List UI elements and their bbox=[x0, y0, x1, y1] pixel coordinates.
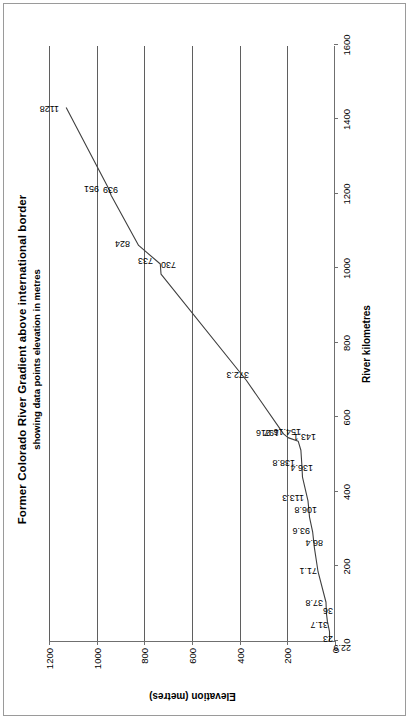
chart-canvas: Former Colorado River Gradient above int… bbox=[3, 3, 406, 716]
figure-frame: Former Colorado River Gradient above int… bbox=[3, 3, 406, 716]
data-point-label: 22.9 bbox=[333, 643, 351, 653]
data-series-line bbox=[49, 45, 335, 641]
data-point-label: 372.3 bbox=[227, 370, 250, 380]
x-tick-label: 200 bbox=[341, 559, 352, 575]
data-point-label: 939 bbox=[103, 186, 118, 196]
plot-area: 020040060080010001200 020040060080010001… bbox=[49, 46, 335, 642]
x-tick-label: 400 bbox=[341, 484, 352, 500]
x-tick-label: 1000 bbox=[341, 258, 352, 279]
y-tick-mark bbox=[144, 641, 145, 645]
x-tick-label: 800 bbox=[341, 335, 352, 351]
data-point-label: 730 bbox=[161, 260, 176, 270]
y-tick-label: 400 bbox=[234, 648, 245, 664]
data-point-label: 23 bbox=[323, 634, 333, 644]
y-tick-label: 600 bbox=[187, 648, 198, 664]
x-tick-label: 600 bbox=[341, 410, 352, 426]
data-point-label: 733 bbox=[138, 256, 153, 266]
data-point-label: 824 bbox=[115, 239, 130, 249]
y-axis-title-label: Elevation (metres) bbox=[149, 691, 236, 702]
y-tick-label: 1200 bbox=[44, 648, 55, 669]
chart-title: Former Colorado River Gradient above int… bbox=[15, 3, 29, 716]
x-tick-label: 1200 bbox=[341, 183, 352, 204]
data-point-label: 138.8 bbox=[272, 458, 295, 468]
rotated-chart-wrapper: Former Colorado River Gradient above int… bbox=[3, 3, 406, 716]
data-point-label: 86.4 bbox=[306, 538, 324, 548]
y-tick-label: 200 bbox=[282, 648, 293, 664]
data-point-label: 37.8 bbox=[305, 598, 323, 608]
data-point-label: 36 bbox=[323, 606, 333, 616]
data-point-label: 216 bbox=[255, 428, 270, 438]
y-tick-mark bbox=[287, 641, 288, 645]
x-tick-label: 1600 bbox=[341, 34, 352, 55]
x-axis-title: River kilometres bbox=[361, 46, 372, 642]
x-tick-label: 1400 bbox=[341, 109, 352, 130]
y-axis-title: Elevation (metres) bbox=[49, 690, 335, 704]
data-point-label: 951 bbox=[84, 184, 99, 194]
data-point-label: 31.7 bbox=[311, 620, 329, 630]
data-point-label: 71.1 bbox=[300, 566, 318, 576]
y-tick-mark bbox=[192, 641, 193, 645]
y-tick-label: 800 bbox=[139, 648, 150, 664]
y-tick-mark bbox=[49, 641, 50, 645]
y-tick-mark bbox=[97, 641, 98, 645]
y-tick-label: 1000 bbox=[91, 648, 102, 669]
data-point-label: 93.6 bbox=[292, 526, 310, 536]
data-point-label: 1128 bbox=[40, 104, 59, 114]
y-tick-mark bbox=[240, 641, 241, 645]
data-point-label: 106.8 bbox=[294, 505, 317, 515]
data-point-label: 113.3 bbox=[282, 493, 304, 503]
